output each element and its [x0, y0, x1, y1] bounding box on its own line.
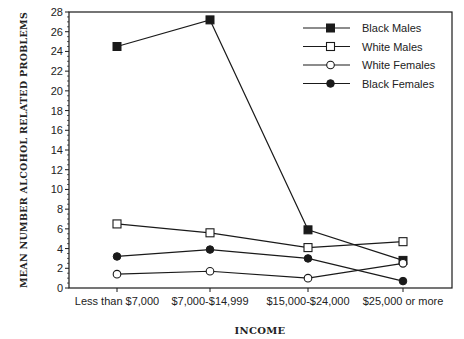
y-tick-label: 14: [51, 144, 63, 156]
filled-circle-marker-icon: [113, 253, 121, 261]
series-black-males: [113, 16, 407, 265]
y-tick-label: 20: [51, 85, 63, 97]
x-tick-label: Less than $7,000: [75, 295, 159, 307]
legend-item: Black Males: [303, 22, 422, 34]
data-series: [113, 16, 407, 285]
y-tick-label: 10: [51, 183, 63, 195]
x-tick-label: $25,000 or more: [363, 295, 444, 307]
x-axis-title: INCOME: [235, 325, 286, 336]
plot-border: [69, 12, 452, 288]
filled-circle-marker-icon: [304, 255, 312, 263]
open-square-marker-icon: [113, 220, 121, 228]
open-circle-marker-icon: [206, 267, 214, 275]
x-tick-label: $15,000-$24,000: [266, 295, 349, 307]
legend-item: Black Females: [303, 78, 435, 90]
filled-square-marker-icon: [327, 24, 335, 32]
y-tick-label: 6: [57, 223, 63, 235]
y-tick-label: 28: [51, 6, 63, 18]
y-tick-label: 18: [51, 105, 63, 117]
open-square-marker-icon: [327, 43, 335, 51]
series-line: [117, 224, 403, 248]
series-line: [117, 20, 403, 261]
filled-circle-marker-icon: [327, 80, 335, 88]
plot-frame: [69, 12, 452, 288]
series-line: [117, 250, 403, 282]
legend-label: White Females: [362, 59, 436, 71]
y-axis: 0246810121416182022242628: [51, 6, 69, 294]
filled-square-marker-icon: [206, 16, 214, 24]
y-tick-label: 2: [57, 262, 63, 274]
series-white-females: [113, 260, 407, 282]
y-tick-label: 22: [51, 65, 63, 77]
filled-square-marker-icon: [113, 43, 121, 51]
filled-square-marker-icon: [304, 226, 312, 234]
y-tick-label: 16: [51, 124, 63, 136]
open-square-marker-icon: [304, 244, 312, 252]
y-axis-title: MEAN NUMBER ALCOHOL RELATED PROBLEMS: [18, 12, 29, 288]
open-circle-marker-icon: [113, 270, 121, 278]
legend-label: Black Males: [362, 22, 422, 34]
legend-item: White Males: [303, 41, 423, 53]
legend-label: Black Females: [362, 78, 435, 90]
legend-label: White Males: [362, 41, 423, 53]
legend: Black MalesWhite MalesWhite FemalesBlack…: [303, 22, 436, 90]
y-tick-label: 8: [57, 203, 63, 215]
y-tick-label: 12: [51, 164, 63, 176]
filled-circle-marker-icon: [399, 277, 407, 285]
x-axis: Less than $7,000$7,000-$14,999$15,000-$2…: [75, 288, 444, 307]
series-black-females: [113, 246, 407, 285]
open-square-marker-icon: [399, 238, 407, 246]
y-tick-label: 0: [57, 282, 63, 294]
series-white-males: [113, 220, 407, 252]
y-tick-label: 26: [51, 26, 63, 38]
y-tick-label: 4: [57, 243, 63, 255]
legend-item: White Females: [303, 59, 436, 71]
x-tick-label: $7,000-$14,999: [171, 295, 248, 307]
open-circle-marker-icon: [304, 274, 312, 282]
open-square-marker-icon: [206, 229, 214, 237]
filled-circle-marker-icon: [206, 246, 214, 254]
line-chart: 0246810121416182022242628 Less than $7,0…: [0, 0, 464, 339]
open-circle-marker-icon: [399, 260, 407, 268]
y-tick-label: 24: [51, 45, 63, 57]
open-circle-marker-icon: [327, 61, 335, 69]
